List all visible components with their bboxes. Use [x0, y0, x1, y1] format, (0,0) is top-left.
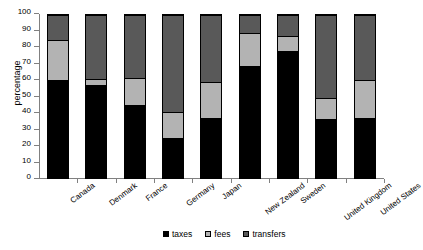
bar-group	[307, 14, 345, 179]
bar-group	[77, 14, 115, 179]
stacked-bar	[354, 14, 376, 179]
legend-label: fees	[214, 229, 230, 239]
bar-segment-fees	[240, 33, 260, 66]
y-axis-title: percentage	[12, 33, 22, 133]
bar-segment-fees	[48, 40, 68, 80]
x-axis-labels: CanadaDenmarkFranceGermanyJapanNew Zeala…	[39, 181, 384, 236]
x-axis-label: United Kingdom	[343, 181, 394, 222]
y-tick-label: 80	[22, 40, 31, 49]
chart-legend: taxesfeestransfers	[163, 229, 285, 239]
bar-segment-taxes	[355, 118, 375, 178]
legend-swatch-icon	[243, 231, 249, 237]
bar-segment-transfers	[125, 15, 145, 78]
bar-segment-taxes	[125, 105, 145, 178]
bar-segment-transfers	[278, 15, 298, 36]
bar-segment-fees	[125, 78, 145, 106]
legend-swatch-icon	[163, 231, 169, 237]
y-tick-label: 70	[22, 57, 31, 66]
x-axis-label: France	[144, 181, 169, 203]
bar-segment-taxes	[201, 118, 221, 178]
stacked-bar	[315, 14, 337, 179]
bar-segment-fees	[355, 80, 375, 117]
y-tick-label: 30	[22, 123, 31, 132]
bar-segment-transfers	[240, 15, 260, 33]
bar-group	[269, 14, 307, 179]
bar-group	[154, 14, 192, 179]
stacked-bar	[47, 14, 69, 179]
bar-segment-transfers	[355, 15, 375, 80]
bar-group	[231, 14, 269, 179]
bar-segment-fees	[316, 98, 336, 119]
bar-group	[346, 14, 384, 179]
x-axis-label: Canada	[68, 181, 96, 205]
y-tick-label: 60	[22, 73, 31, 82]
stacked-bar	[200, 14, 222, 179]
bar-group	[192, 14, 230, 179]
legend-label: taxes	[172, 229, 192, 239]
bar-segment-fees	[201, 82, 221, 118]
stacked-bar	[124, 14, 146, 179]
bar-segment-transfers	[316, 15, 336, 98]
bar-segment-taxes	[48, 80, 68, 178]
stacked-bar	[85, 14, 107, 179]
bar-segment-transfers	[201, 15, 221, 82]
y-tick-label: 10	[22, 156, 31, 165]
bar-segment-taxes	[163, 138, 183, 178]
bar-segment-fees	[278, 36, 298, 51]
legend-swatch-icon	[205, 231, 211, 237]
bar-segment-taxes	[240, 66, 260, 178]
bar-segment-taxes	[86, 85, 106, 178]
bar-series-container	[39, 14, 384, 179]
legend-item: transfers	[243, 229, 285, 239]
y-tick-label: 50	[22, 90, 31, 99]
legend-label: transfers	[252, 229, 285, 239]
x-axis-label: Denmark	[108, 181, 139, 208]
bar-segment-transfers	[163, 15, 183, 112]
bar-segment-transfers	[48, 15, 68, 40]
bar-group	[116, 14, 154, 179]
bar-segment-fees	[163, 112, 183, 138]
x-axis-label: Germany	[184, 181, 216, 208]
bar-segment-taxes	[316, 119, 336, 178]
y-tick-label: 40	[22, 106, 31, 115]
y-tick-label: 0	[27, 172, 31, 181]
stacked-bar	[162, 14, 184, 179]
bar-segment-taxes	[278, 51, 298, 178]
legend-item: taxes	[163, 229, 192, 239]
plot-area: 0102030405060708090100	[39, 14, 384, 179]
bar-segment-transfers	[86, 15, 106, 79]
legend-item: fees	[205, 229, 230, 239]
stacked-bar	[239, 14, 261, 179]
y-tick-label: 90	[22, 24, 31, 33]
y-tick-label: 100	[18, 7, 31, 16]
bar-group	[39, 14, 77, 179]
x-axis-label: Japan	[220, 181, 243, 201]
stacked-bar	[277, 14, 299, 179]
y-tick-label: 20	[22, 139, 31, 148]
